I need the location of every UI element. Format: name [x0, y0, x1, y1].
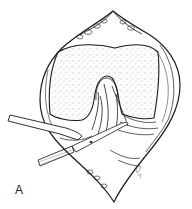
panel-label: A: [15, 184, 23, 196]
surgical-illustration: [0, 0, 192, 209]
